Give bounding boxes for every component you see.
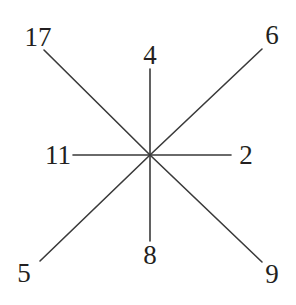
node-label-ne: 6 <box>265 22 279 49</box>
node-label-e: 2 <box>239 142 253 169</box>
node-label-sw: 5 <box>17 260 31 287</box>
ray-group <box>40 49 262 262</box>
node-label-n: 4 <box>143 42 157 69</box>
node-label-nw: 17 <box>25 24 52 51</box>
node-label-w: 11 <box>45 142 71 169</box>
diagram-canvas: 17 4 6 11 2 5 8 9 <box>0 0 296 305</box>
node-label-se: 9 <box>265 261 279 288</box>
ray-sw <box>40 155 150 261</box>
node-label-s: 8 <box>143 242 157 269</box>
ray-se <box>150 155 262 262</box>
